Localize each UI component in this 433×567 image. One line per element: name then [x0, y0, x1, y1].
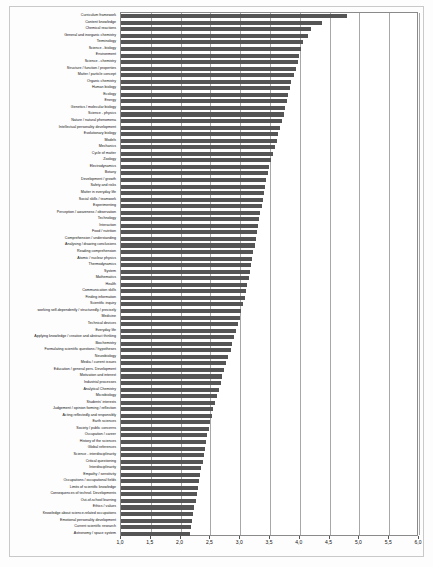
category-label: Consequences of technol. Developments — [50, 491, 116, 495]
bar-row — [121, 224, 419, 228]
bar-row — [121, 374, 419, 378]
category-label: Earth sciences — [92, 419, 116, 423]
category-label: Everyday life — [95, 328, 116, 332]
bar — [121, 283, 247, 287]
bar-row — [121, 204, 419, 208]
category-label: Matter / particle concept — [78, 72, 116, 76]
bar — [121, 243, 255, 247]
bar — [121, 257, 252, 261]
category-label: Electrodynamics — [90, 164, 116, 168]
category-label: Social skills / teamwork — [79, 197, 116, 201]
bar — [121, 73, 294, 77]
category-label: Perception / awareness / observation — [57, 210, 116, 214]
bar-row — [121, 165, 419, 169]
category-label: Organic chemistry — [87, 79, 116, 83]
bar — [121, 368, 224, 372]
category-label: Biochemistry — [95, 341, 116, 345]
bar — [121, 309, 241, 313]
bar — [121, 217, 259, 221]
bar — [121, 178, 266, 182]
bar-row — [121, 86, 419, 90]
x-axis: 1,01,52,02,53,03,54,04,55,05,56,0 — [120, 536, 418, 554]
category-label: Zoology — [103, 157, 116, 161]
bar-row — [121, 132, 419, 136]
bar — [121, 296, 245, 300]
bar-row — [121, 14, 419, 18]
bar-row — [121, 388, 419, 392]
bar — [121, 119, 282, 123]
category-label: Occupations / occupational fields — [63, 478, 116, 482]
bar-row — [121, 407, 419, 411]
bar — [121, 348, 231, 352]
category-label: Medicine — [102, 314, 116, 318]
bar — [121, 342, 232, 346]
chart-figure: Curriculum frameworkContent knowledgeChe… — [0, 0, 433, 567]
bar-row — [121, 119, 419, 123]
bar-row — [121, 440, 419, 444]
bar-row — [121, 230, 419, 234]
category-label: working self-dependently / structuredly … — [38, 308, 117, 312]
bar-row — [121, 420, 419, 424]
category-label: Science - interdisciplinarity — [73, 452, 116, 456]
bar-row — [121, 171, 419, 175]
category-label: Botany — [105, 170, 116, 174]
category-label: Mathematics — [96, 275, 116, 279]
category-label: Empathy / sensitivity — [83, 472, 116, 476]
category-label: System — [104, 269, 116, 273]
category-label: History of the sciences — [80, 439, 116, 443]
bar — [121, 302, 243, 306]
category-label: Development / growth — [81, 177, 116, 181]
bar — [121, 158, 271, 162]
bar — [121, 112, 284, 116]
bar — [121, 270, 250, 274]
bar-row — [121, 447, 419, 451]
bar — [121, 519, 192, 523]
bar — [121, 152, 273, 156]
bar-row — [121, 139, 419, 143]
category-label: Microbiology — [96, 393, 116, 397]
bar-row — [121, 217, 419, 221]
bar-row — [121, 263, 419, 267]
bar — [121, 40, 303, 44]
bar-row — [121, 499, 419, 503]
category-label: Ecology — [103, 92, 116, 96]
category-axis-labels: Curriculum frameworkContent knowledgeChe… — [0, 12, 118, 536]
bar — [121, 171, 268, 175]
category-label: Neurobiology — [95, 354, 116, 358]
gridline — [419, 13, 420, 535]
category-label: Global references — [88, 445, 116, 449]
category-label: Limits of scientific knowledge — [70, 485, 116, 489]
category-label: Industrial processes — [84, 380, 116, 384]
bar-row — [121, 322, 419, 326]
bar — [121, 322, 238, 326]
bar — [121, 460, 203, 464]
x-tick-label: 5,0 — [355, 539, 362, 546]
category-label: Environment — [96, 52, 116, 56]
bar-row — [121, 80, 419, 84]
bar — [121, 54, 299, 58]
bar-row — [121, 54, 419, 58]
category-label: Astronomy / space system — [74, 531, 116, 535]
bar — [121, 394, 217, 398]
bar — [121, 414, 212, 418]
category-label: Ethics / values — [93, 504, 116, 508]
bar — [121, 525, 191, 529]
plot-wrapper — [120, 12, 418, 536]
bars-container — [121, 13, 417, 535]
bar — [121, 165, 269, 169]
bar-row — [121, 525, 419, 529]
bar — [121, 473, 200, 477]
bar — [121, 499, 196, 503]
bar — [121, 230, 257, 234]
category-label: Critical questioning — [86, 459, 116, 463]
category-label: Judgement / opinion forming / reflection — [53, 406, 116, 410]
bar — [121, 355, 228, 359]
category-label: Science - biology — [89, 46, 116, 50]
category-label: Applying knowledge / creative and abstra… — [34, 334, 116, 338]
category-label: Finding information — [85, 295, 116, 299]
category-label: Current scientific research — [74, 524, 116, 528]
bar-row — [121, 505, 419, 509]
bar-row — [121, 342, 419, 346]
bar-row — [121, 368, 419, 372]
bar-row — [121, 302, 419, 306]
